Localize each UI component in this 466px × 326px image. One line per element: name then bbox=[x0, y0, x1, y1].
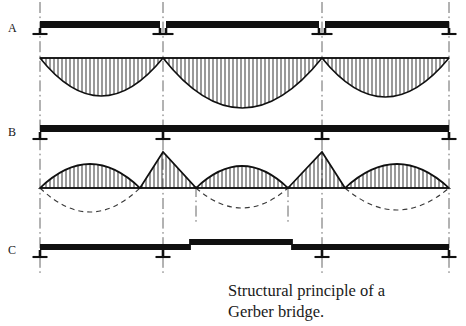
gerber-bridge-figure bbox=[0, 0, 466, 326]
beam-segment-b-1 bbox=[40, 125, 449, 132]
beam-segment-a-3 bbox=[325, 21, 449, 28]
beam-segment-a-1 bbox=[40, 21, 160, 28]
caption-line-2: Gerber bridge. bbox=[228, 301, 460, 322]
figure-background bbox=[0, 0, 466, 326]
panel-a-beam-segments bbox=[40, 21, 449, 28]
beam-segment-c-2 bbox=[190, 239, 292, 245]
caption-line-1: Structural principle of a bbox=[228, 280, 460, 301]
beam-segment-c-1 bbox=[40, 244, 190, 250]
figure-caption: Structural principle of a Gerber bridge. bbox=[228, 280, 460, 322]
row-label-b: B bbox=[8, 125, 16, 140]
beam-segment-a-2 bbox=[166, 21, 319, 28]
row-label-c: C bbox=[8, 243, 16, 258]
beam-segment-c-3 bbox=[292, 244, 449, 250]
row-label-a: A bbox=[8, 21, 17, 36]
panel-b-beam-segments bbox=[40, 125, 449, 132]
